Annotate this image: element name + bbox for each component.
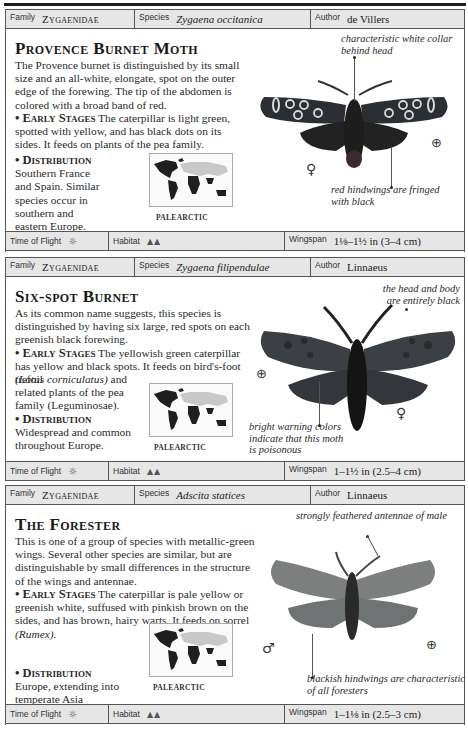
species-cell: Species Zygaena occitanica — [135, 10, 311, 28]
wingspan-label: Wingspan — [289, 707, 327, 717]
species-card-six-spot-burnet: Family Zygaenidae Species Zygaena filipe… — [5, 257, 465, 481]
annotation-leader — [354, 57, 355, 101]
annotation-leader — [319, 381, 320, 425]
card-header: Family Zygaenidae Species Zygaena filipe… — [6, 257, 464, 277]
annotation-dot — [353, 56, 356, 59]
annotation-dot — [390, 186, 393, 189]
family-value: Zygaenidae — [42, 261, 99, 273]
continued-block: (Lotus corniculatus) and related plants … — [15, 373, 145, 452]
family-cell: Family Zygaenidae — [6, 10, 135, 28]
species-label: Species — [139, 260, 169, 270]
distribution-block: • Distribution Southern France and Spain… — [15, 154, 145, 233]
annotation-hindwings: red hindwings are fringed with black — [331, 184, 441, 207]
sun-icon: ☼ — [68, 466, 77, 477]
family-label: Family — [10, 12, 35, 22]
wingspan-value: 1–1½ in (2.5–4 cm) — [334, 465, 421, 477]
habitat-cell: Habitat ▲▲ — [109, 232, 285, 250]
annotation-collar: characteristic white collar behind head — [341, 33, 464, 56]
wingspan-cell: Wingspan 1–1⅛ in (2.5–3 cm) — [285, 705, 464, 723]
range-map — [149, 153, 233, 207]
family-label: Family — [10, 260, 35, 270]
world-map-icon — [150, 624, 234, 678]
map-region-label: PALEARCTIC — [156, 213, 208, 222]
wingspan-value: 1–1⅛ in (2.5–3 cm) — [334, 708, 421, 720]
species-cell: Species Adscita statices — [135, 486, 311, 504]
early-stages-heading: • Early Stages — [15, 587, 95, 601]
habitat-cell: Habitat ▲▲ — [109, 462, 285, 480]
magnifier-icon[interactable]: ⊕ — [256, 366, 267, 381]
annotation-dot — [318, 424, 321, 427]
male-symbol-icon: ♂ — [262, 640, 275, 656]
meadow-habitat-icon: ▲▲ — [147, 710, 161, 719]
habitat-cell: Habitat ▲▲ — [109, 705, 285, 723]
intro-text: This is one of a group of species with m… — [15, 535, 255, 588]
latin-name: (Rumex). — [15, 628, 56, 640]
wingspan-cell: Wingspan 1–1½ in (2.5–4 cm) — [285, 462, 464, 480]
card-header: Family Zygaenidae Species Adscita static… — [6, 485, 464, 505]
world-map-icon — [150, 154, 234, 208]
card-header: Family Zygaenidae Species Zygaena occita… — [6, 9, 464, 29]
species-title: Provence Burnet Moth — [15, 39, 198, 59]
annotation-dot — [405, 308, 408, 311]
distribution-heading: • Distribution — [15, 153, 92, 167]
author-label: Author — [315, 12, 340, 22]
species-card-forester: Family Zygaenidae Species Adscita static… — [5, 485, 465, 725]
species-value: Zygaena filipendulae — [176, 261, 269, 273]
species-card-provence-burnet: Family Zygaenidae Species Zygaena occita… — [5, 9, 465, 252]
range-map — [149, 623, 233, 677]
species-value: Zygaena occitanica — [176, 13, 262, 25]
distribution-block: • Distribution Europe, extending into te… — [15, 667, 145, 707]
author-cell: Author Linnaeus — [311, 486, 464, 504]
annotation-dot — [311, 676, 314, 679]
intro-text: As its common name suggests, this specie… — [15, 307, 251, 347]
distribution-text: Southern France and Spain. Similar speci… — [15, 167, 107, 233]
family-value: Zygaenidae — [42, 13, 99, 25]
wingspan-label: Wingspan — [289, 464, 327, 474]
species-cell: Species Zygaena filipendulae — [135, 258, 311, 276]
species-title: Six-spot Burnet — [15, 287, 138, 307]
distribution-heading: • Distribution — [15, 412, 92, 426]
early-stages-heading: • Early Stages — [15, 111, 95, 125]
female-symbol-icon: ♀ — [306, 161, 316, 177]
magnifier-icon[interactable]: ⊕ — [426, 637, 437, 652]
card-footer: Time of Flight ☼ Habitat ▲▲ Wingspan 1–1… — [6, 461, 464, 481]
family-cell: Family Zygaenidae — [6, 258, 135, 276]
author-value: Linnaeus — [347, 261, 387, 273]
map-region-label: PALEARCTIC — [154, 443, 206, 452]
author-label: Author — [315, 488, 340, 498]
early-stages-heading: • Early Stages — [15, 346, 95, 360]
meadow-habitat-icon: ▲▲ — [147, 237, 161, 246]
habitat-label: Habitat — [113, 466, 140, 476]
wingspan-cell: Wingspan 1⅛–1½ in (3–4 cm) — [285, 232, 464, 250]
top-rule — [4, 3, 466, 6]
species-description: This is one of a group of species with m… — [15, 535, 255, 588]
species-label: Species — [139, 488, 169, 498]
time-of-flight-cell: Time of Flight ☼ — [6, 705, 109, 723]
time-of-flight-cell: Time of Flight ☼ — [6, 232, 109, 250]
family-label: Family — [10, 488, 35, 498]
species-label: Species — [139, 12, 169, 22]
family-cell: Family Zygaenidae — [6, 486, 135, 504]
wingspan-value: 1⅛–1½ in (3–4 cm) — [334, 235, 421, 247]
sun-icon: ☼ — [68, 709, 77, 720]
annotation-leader — [391, 147, 392, 187]
family-value: Zygaenidae — [42, 489, 99, 501]
author-label: Author — [315, 260, 340, 270]
author-value: Linnaeus — [347, 489, 387, 501]
card-footer: Time of Flight ☼ Habitat ▲▲ Wingspan 1⅛–… — [6, 231, 464, 251]
sun-icon: ☼ — [68, 236, 77, 247]
intro-text: The Provence burnet is distinguished by … — [15, 59, 255, 112]
author-value: de Villers — [347, 13, 389, 25]
species-value: Adscita statices — [176, 489, 245, 501]
time-of-flight-cell: Time of Flight ☼ — [6, 462, 109, 480]
card-body: Provence Burnet Moth The Provence burnet… — [6, 29, 464, 231]
wingspan-label: Wingspan — [289, 234, 327, 244]
world-map-icon — [150, 384, 234, 438]
author-cell: Author Linnaeus — [311, 258, 464, 276]
card-body: The Forester This is one of a group of s… — [6, 506, 464, 704]
card-body: Six-spot Burnet As its common name sugge… — [6, 277, 464, 461]
species-description: The Provence burnet is distinguished by … — [15, 59, 255, 151]
distribution-text: Widespread and common throughout Europe. — [15, 426, 145, 452]
magnifier-icon[interactable]: ⊕ — [431, 135, 442, 150]
meadow-habitat-icon: ▲▲ — [147, 467, 161, 476]
